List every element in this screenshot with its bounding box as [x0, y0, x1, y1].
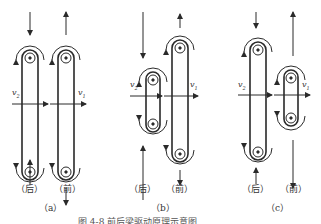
velocity-front-a: v1	[78, 88, 86, 99]
front-belt-b	[166, 14, 194, 185]
rear-belt-b	[139, 12, 167, 200]
velocity-rear-a: v2	[12, 88, 20, 99]
front-label-a: （前）	[54, 182, 81, 195]
subfigure-label-b: （b）	[151, 201, 175, 214]
subfigure-label-a: （a）	[39, 201, 62, 214]
subfigure-label-c: （c）	[266, 201, 289, 214]
velocity-front-b: v1	[190, 80, 198, 91]
rear-label-c: （后）	[242, 182, 269, 195]
velocity-front-c: v1	[302, 80, 310, 91]
belt-diagram	[0, 0, 321, 224]
rear-belt-c	[244, 12, 272, 184]
rear-label-a: （后）	[16, 182, 43, 195]
rear-label-b: （后）	[129, 182, 156, 195]
figure-caption: 图 4-8 前后梁驱动原理示意图	[78, 215, 197, 224]
velocity-rear-b: v2	[130, 80, 138, 91]
front-label-c: （前）	[280, 182, 307, 195]
rear-belt-a	[16, 12, 44, 185]
velocity-rear-c: v2	[238, 80, 246, 91]
front-belt-c	[277, 12, 305, 188]
front-belt-a	[52, 12, 80, 205]
front-label-b: （前）	[166, 182, 193, 195]
